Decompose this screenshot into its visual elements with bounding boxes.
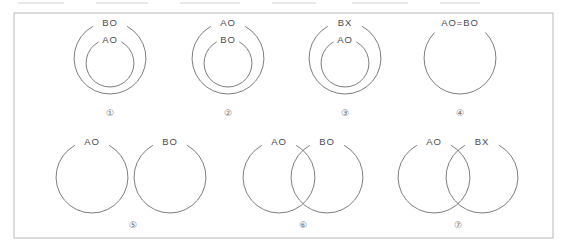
set-label: AO bbox=[220, 17, 236, 28]
diagram-index-label: ⑤ bbox=[129, 220, 137, 230]
scan-artifact bbox=[180, 2, 240, 4]
circle-relationship-figure: BOAO①AOBO②BXAO③AO=BO④AOBO⑤AOBO⑥AOBX⑦ bbox=[0, 0, 568, 251]
set-label: AO bbox=[426, 136, 442, 147]
diagram-index-label: ⑥ bbox=[299, 220, 307, 230]
set-label: BO bbox=[162, 136, 178, 147]
diagram-index-label: ③ bbox=[341, 108, 349, 118]
set-label: AO bbox=[271, 136, 287, 147]
set-label: BO bbox=[220, 34, 236, 45]
set-label: BX bbox=[338, 17, 352, 28]
set-label: AO=BO bbox=[441, 17, 479, 28]
scan-artifact bbox=[440, 2, 480, 4]
scan-artifact bbox=[272, 2, 316, 4]
set-label: BO bbox=[319, 136, 335, 147]
set-label: BO bbox=[102, 17, 118, 28]
set-label: AO bbox=[102, 34, 118, 45]
set-label: BX bbox=[475, 136, 489, 147]
set-label: AO bbox=[337, 34, 353, 45]
diagram-index-label: ④ bbox=[456, 108, 464, 118]
scan-artifact bbox=[18, 2, 64, 4]
diagram-index-label: ⑦ bbox=[454, 220, 462, 230]
diagram-index-label: ② bbox=[224, 108, 232, 118]
set-label: AO bbox=[84, 136, 100, 147]
figure-frame bbox=[14, 13, 553, 238]
diagram-index-label: ① bbox=[106, 108, 114, 118]
scan-artifact bbox=[96, 2, 148, 4]
scan-artifact bbox=[352, 2, 408, 4]
figure-root: BOAO①AOBO②BXAO③AO=BO④AOBO⑤AOBO⑥AOBX⑦ bbox=[0, 0, 568, 251]
